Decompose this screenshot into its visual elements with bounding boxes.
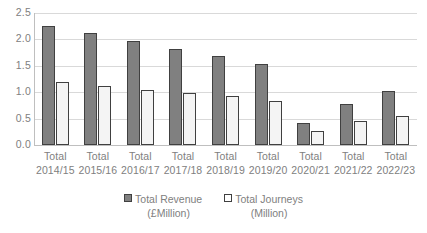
bar-group	[162, 13, 205, 145]
y-axis-tick-label: 2.5	[1, 7, 31, 18]
gridline	[34, 145, 417, 146]
bar-journeys	[56, 82, 69, 145]
bar-revenue	[340, 104, 353, 145]
bar-revenue	[42, 26, 55, 145]
x-axis-label: Total2014/15	[34, 149, 77, 177]
y-axis-tick-label: 1.5	[1, 60, 31, 71]
bar-revenue	[255, 64, 268, 145]
bar-journeys	[354, 121, 367, 145]
y-axis-tick-label: 2.0	[1, 33, 31, 44]
bar-journeys	[311, 131, 324, 145]
x-axis-label: Total2016/17	[119, 149, 162, 177]
bar-revenue	[212, 56, 225, 145]
legend-label: Total Journeys(Million)	[235, 192, 303, 220]
bar-revenue	[297, 123, 310, 145]
bar-journeys	[141, 90, 154, 145]
bar-group	[34, 13, 77, 145]
x-axis-label: Total2020/21	[289, 149, 332, 177]
legend-swatch-journeys-icon	[224, 194, 232, 202]
y-axis-tick-label: 0.0	[1, 139, 31, 150]
bar-group	[119, 13, 162, 145]
legend-swatch-revenue-icon	[124, 194, 132, 202]
legend-label: Total Revenue(£Million)	[135, 192, 202, 220]
legend-item-revenue[interactable]: Total Revenue(£Million)	[124, 192, 202, 220]
bar-group	[204, 13, 247, 145]
bar-journeys	[98, 86, 111, 145]
bar-journeys	[226, 96, 239, 145]
bar-group	[247, 13, 290, 145]
bar-revenue	[127, 41, 140, 145]
y-axis-tick-labels: 0.00.51.01.52.02.5	[0, 13, 31, 145]
chart-legend: Total Revenue(£Million)Total Journeys(Mi…	[0, 192, 427, 220]
bar-revenue	[169, 49, 182, 145]
x-axis-label: Total2017/18	[162, 149, 205, 177]
bar-chart: 0.00.51.01.52.02.5 Total2014/15Total2015…	[0, 0, 427, 233]
bar-group	[332, 13, 375, 145]
x-axis-label: Total2015/16	[77, 149, 120, 177]
legend-item-journeys[interactable]: Total Journeys(Million)	[224, 192, 303, 220]
x-axis-label: Total2021/22	[332, 149, 375, 177]
bar-revenue	[84, 33, 97, 145]
bar-journeys	[396, 116, 409, 145]
x-axis-label: Total2022/23	[375, 149, 418, 177]
x-axis-label: Total2018/19	[204, 149, 247, 177]
bar-group	[77, 13, 120, 145]
bar-groups	[34, 13, 417, 145]
bar-journeys	[269, 101, 282, 145]
y-axis-tick-label: 1.0	[1, 86, 31, 97]
bar-journeys	[183, 93, 196, 145]
bar-group	[289, 13, 332, 145]
x-axis-category-labels: Total2014/15Total2015/16Total2016/17Tota…	[34, 149, 417, 177]
bar-group	[375, 13, 418, 145]
bar-revenue	[382, 91, 395, 145]
y-axis-tick-label: 0.5	[1, 113, 31, 124]
x-axis-label: Total2019/20	[247, 149, 290, 177]
